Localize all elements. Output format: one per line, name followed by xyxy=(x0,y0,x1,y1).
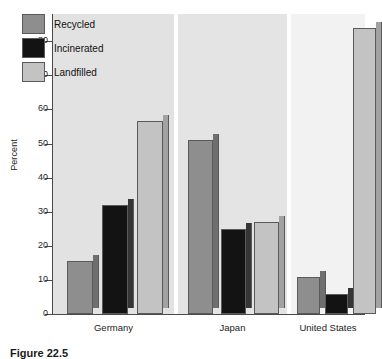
bar-side-face xyxy=(128,199,134,308)
bar-front-face xyxy=(137,121,163,314)
legend-item-recycled: Recycled xyxy=(22,12,103,36)
bar-front-face xyxy=(297,277,320,315)
bar-japan-recycled xyxy=(188,140,213,314)
legend-label-landfilled: Landfilled xyxy=(54,67,97,78)
legend-swatch-recycled xyxy=(22,14,45,34)
y-tick-label: 10 xyxy=(38,274,48,284)
bar-front-face xyxy=(254,222,279,314)
bar-side-face xyxy=(163,115,169,308)
y-tick-label: 40 xyxy=(38,172,48,182)
x-axis-label-united-states: United States xyxy=(291,322,365,333)
x-axis-label-germany: Germany xyxy=(53,322,174,333)
y-tick-label: 30 xyxy=(38,206,48,216)
legend-swatch-landfilled xyxy=(22,62,45,82)
y-tick-label: 60 xyxy=(38,103,48,113)
y-tick-label: 20 xyxy=(38,240,48,250)
figure-caption: Figure 22.5 xyxy=(10,347,68,359)
bar-side-face xyxy=(279,216,285,308)
legend-item-incinerated: Incinerated xyxy=(22,36,103,60)
bar-united-states-recycled xyxy=(297,277,320,315)
bar-united-states-landfilled xyxy=(353,28,376,314)
legend: RecycledIncineratedLandfilled xyxy=(22,12,103,84)
bar-front-face xyxy=(188,140,213,314)
y-axis-title: Percent xyxy=(9,125,19,185)
bar-side-face xyxy=(213,134,219,308)
legend-item-landfilled: Landfilled xyxy=(22,60,103,84)
bar-germany-incinerated xyxy=(102,205,128,314)
y-tick-label: 0 xyxy=(43,308,48,318)
bar-japan-landfilled xyxy=(254,222,279,314)
legend-label-recycled: Recycled xyxy=(54,19,95,30)
legend-swatch-incinerated xyxy=(22,38,45,58)
bar-side-face xyxy=(93,255,99,308)
bar-germany-recycled xyxy=(67,261,93,314)
y-tick-label: 50 xyxy=(38,138,48,148)
legend-label-incinerated: Incinerated xyxy=(54,43,103,54)
bar-front-face xyxy=(67,261,93,314)
bar-germany-landfilled xyxy=(137,121,163,314)
bar-front-face xyxy=(325,294,348,314)
bar-japan-incinerated xyxy=(221,229,246,314)
bar-united-states-incinerated xyxy=(325,294,348,314)
bar-side-face xyxy=(246,223,252,308)
bar-side-face xyxy=(376,22,382,308)
bar-front-face xyxy=(353,28,376,314)
bar-front-face xyxy=(102,205,128,314)
x-axis-line xyxy=(52,314,365,315)
bar-front-face xyxy=(221,229,246,314)
x-axis-label-japan: Japan xyxy=(178,322,287,333)
